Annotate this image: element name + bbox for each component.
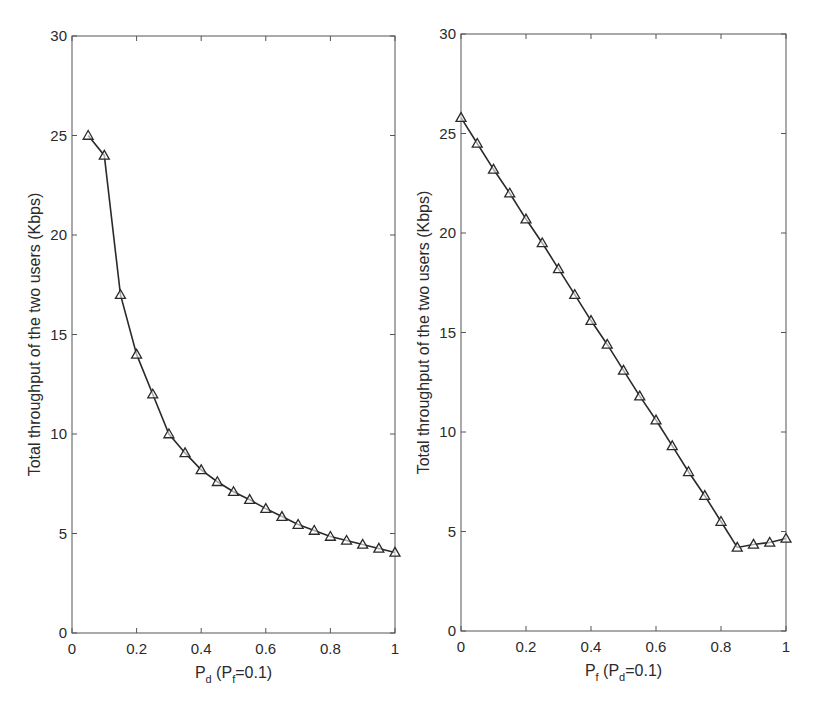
y-tick-label: 20: [50, 226, 67, 243]
triangle-marker-icon: [537, 238, 547, 247]
y-tick-label: 30: [50, 27, 67, 44]
y-tick-label: 0: [59, 624, 67, 641]
data-line: [88, 136, 395, 553]
chart-panel-right: 00.20.40.60.81051015202530Pf (Pd=0.1)Tot…: [415, 25, 791, 683]
triangle-marker-icon: [212, 477, 222, 486]
x-tick-label: 0: [457, 638, 465, 655]
data-line: [461, 118, 786, 548]
triangle-marker-icon: [293, 520, 303, 529]
x-tick-label: 0.8: [320, 640, 341, 657]
triangle-marker-icon: [505, 188, 515, 197]
triangle-marker-icon: [667, 441, 677, 450]
triangle-marker-icon: [229, 487, 239, 496]
y-tick-label: 25: [439, 125, 456, 142]
y-tick-label: 25: [50, 127, 67, 144]
triangle-marker-icon: [602, 339, 612, 348]
y-tick-label: 5: [59, 525, 67, 542]
triangle-marker-icon: [148, 389, 158, 398]
triangle-marker-icon: [700, 491, 710, 500]
triangle-marker-icon: [586, 316, 596, 325]
triangle-marker-icon: [521, 214, 531, 223]
x-tick-label: 0.4: [191, 640, 212, 657]
triangle-marker-icon: [554, 264, 564, 273]
y-axis-label: Total throughput of the two users (Kbps): [415, 191, 432, 475]
x-tick-label: 0: [68, 640, 76, 657]
x-tick-label: 1: [391, 640, 399, 657]
y-tick-label: 30: [439, 25, 456, 42]
x-tick-label: 0.2: [516, 638, 537, 655]
y-tick-label: 10: [50, 425, 67, 442]
y-tick-label: 15: [50, 326, 67, 343]
chart-panel-left: 00.20.40.60.81051015202530Pd (Pf=0.1)Tot…: [26, 27, 400, 685]
triangle-marker-icon: [716, 517, 726, 526]
x-tick-label: 0.8: [711, 638, 732, 655]
triangle-marker-icon: [261, 504, 271, 513]
triangle-marker-icon: [570, 290, 580, 299]
y-tick-label: 5: [448, 523, 456, 540]
triangle-marker-icon: [684, 467, 694, 476]
x-tick-label: 0.6: [646, 638, 667, 655]
triangle-marker-icon: [83, 131, 93, 140]
triangle-marker-icon: [245, 495, 255, 504]
x-axis-label: Pd (Pf=0.1): [195, 664, 272, 685]
x-axis-label: Pf (Pd=0.1): [585, 662, 662, 683]
triangle-marker-icon: [619, 365, 629, 374]
triangle-marker-icon: [781, 533, 791, 542]
x-tick-label: 0.6: [255, 640, 276, 657]
triangle-marker-icon: [456, 113, 466, 122]
triangle-marker-icon: [164, 429, 174, 438]
y-tick-label: 20: [439, 224, 456, 241]
y-axis-label: Total throughput of the two users (Kbps): [26, 193, 43, 477]
triangle-marker-icon: [635, 391, 645, 400]
chart-figure: 00.20.40.60.81051015202530Pd (Pf=0.1)Tot…: [0, 0, 814, 707]
y-tick-label: 0: [448, 622, 456, 639]
triangle-marker-icon: [115, 290, 125, 299]
x-tick-label: 0.2: [126, 640, 147, 657]
triangle-marker-icon: [277, 512, 287, 521]
triangle-marker-icon: [132, 349, 142, 358]
triangle-marker-icon: [651, 415, 661, 424]
y-tick-label: 10: [439, 423, 456, 440]
triangle-marker-icon: [472, 138, 482, 147]
triangle-marker-icon: [489, 164, 499, 173]
x-tick-label: 1: [782, 638, 790, 655]
x-tick-label: 0.4: [581, 638, 602, 655]
y-tick-label: 15: [439, 324, 456, 341]
